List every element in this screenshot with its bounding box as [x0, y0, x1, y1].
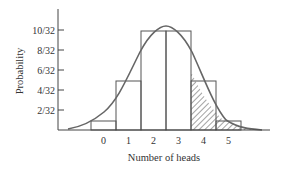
- y-tick-label: 4/32: [37, 85, 55, 96]
- shaded-tail-region: [191, 60, 266, 130]
- y-axis-title: Probability: [14, 47, 25, 94]
- histogram-bars: [91, 31, 241, 130]
- y-tick-label: 6/32: [37, 65, 55, 76]
- bar-1: [116, 81, 141, 130]
- x-tick-label: 4: [201, 135, 206, 146]
- x-tick-label: 0: [101, 135, 106, 146]
- x-tick-label: 5: [226, 135, 231, 146]
- x-tick-label: 1: [126, 135, 131, 146]
- y-tick-label: 10/32: [32, 25, 55, 36]
- bar-2: [141, 31, 166, 130]
- chart: 2/32 4/32 6/32 8/32 10/32 0 1 2 3 4 5 Nu…: [0, 0, 285, 170]
- x-tick-label: 2: [151, 135, 156, 146]
- x-tick-label: 3: [176, 135, 181, 146]
- x-axis-title: Number of heads: [128, 152, 200, 163]
- bar-0: [91, 121, 116, 130]
- normal-curve: [68, 26, 262, 130]
- y-tick-label: 8/32: [37, 45, 55, 56]
- y-tick-label: 2/32: [37, 105, 55, 116]
- y-ticks: [58, 30, 64, 110]
- bar-3: [166, 31, 191, 130]
